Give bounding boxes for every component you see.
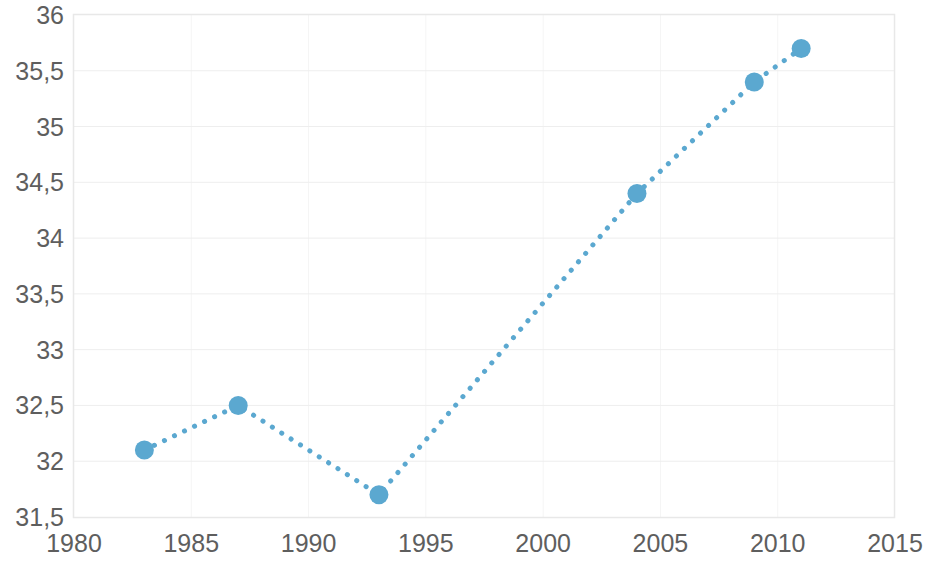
y-axis-tick-label: 34 (36, 224, 64, 252)
y-axis-tick-label: 35 (36, 113, 64, 141)
x-axis-tick-label: 1980 (46, 529, 102, 557)
x-axis-tick-label: 1995 (398, 529, 454, 557)
data-point-marker[interactable] (369, 485, 388, 504)
x-axis-tick-label: 2010 (750, 529, 806, 557)
x-axis-tick-label: 1990 (281, 529, 337, 557)
y-axis-tick-label: 31,5 (15, 503, 64, 531)
data-point-marker[interactable] (792, 39, 811, 58)
line-chart: 31,53232,53333,53434,53535,536 198019851… (0, 0, 928, 563)
y-axis-tick-label: 32,5 (15, 391, 64, 419)
x-axis-tick-label: 2015 (867, 529, 923, 557)
y-axis-tick-label: 32 (36, 447, 64, 475)
data-point-marker[interactable] (627, 184, 646, 203)
y-axis-tick-label: 34,5 (15, 168, 64, 196)
y-axis-tick-label: 33 (36, 336, 64, 364)
x-axis-tick-label: 2000 (515, 529, 571, 557)
y-axis-tick-label: 36 (36, 1, 64, 29)
chart-container: 31,53232,53333,53434,53535,536 198019851… (0, 0, 928, 563)
y-axis-tick-label: 35,5 (15, 57, 64, 85)
data-point-marker[interactable] (135, 441, 154, 460)
y-axis-tick-label: 33,5 (15, 280, 64, 308)
x-axis-tick-label: 1985 (163, 529, 219, 557)
x-axis-tick-label: 2005 (633, 529, 689, 557)
data-point-marker[interactable] (229, 396, 248, 415)
chart-background (0, 0, 928, 563)
data-point-marker[interactable] (745, 72, 764, 91)
